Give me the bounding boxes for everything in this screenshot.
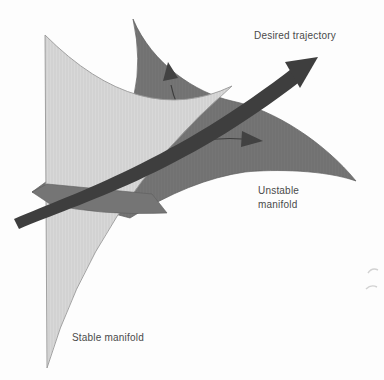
manifold-diagram-svg: Desired trajectory Unstable manifold Sta…	[0, 0, 384, 380]
unstable-manifold-label-line1: Unstable	[258, 185, 299, 196]
stable-manifold-label: Stable manifold	[72, 332, 144, 343]
print-smudges	[366, 269, 378, 289]
manifold-figure: Desired trajectory Unstable manifold Sta…	[0, 0, 384, 380]
desired-trajectory-label: Desired trajectory	[254, 30, 336, 41]
unstable-manifold-label-line2: manifold	[258, 199, 297, 210]
